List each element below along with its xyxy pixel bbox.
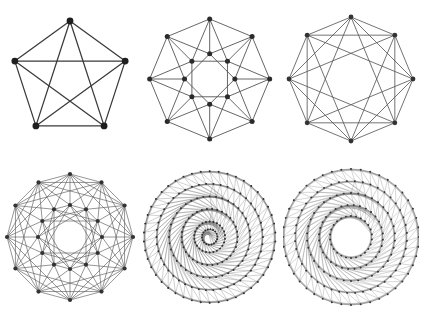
graph-edge xyxy=(383,197,390,207)
graph-vertex xyxy=(333,248,335,250)
graph-vertex xyxy=(402,216,404,218)
graph-edge xyxy=(299,264,301,282)
graph-edge xyxy=(330,240,337,253)
graph-vertex xyxy=(192,259,194,261)
graph-vertex xyxy=(215,276,217,278)
graph-vertex xyxy=(370,288,372,290)
graph-edge xyxy=(156,198,173,199)
graph-edge xyxy=(152,207,165,210)
graph-vertex xyxy=(365,264,367,266)
graph-vertex xyxy=(369,171,371,173)
graph-edge xyxy=(383,219,391,239)
graph-vertex xyxy=(407,199,409,201)
graph-vertex xyxy=(185,221,187,223)
graph-edge xyxy=(379,175,402,192)
graph-vertex xyxy=(219,224,221,226)
graph-vertex xyxy=(195,231,197,233)
graph-vertex xyxy=(323,201,325,203)
graph-edge xyxy=(366,255,391,265)
graph-edge xyxy=(156,199,169,203)
graph-edge xyxy=(125,237,133,269)
graph-edge xyxy=(39,174,71,182)
graph-vertex xyxy=(245,197,247,199)
graph-edge xyxy=(378,192,384,202)
graph-vertex xyxy=(333,224,335,226)
graph-vertex xyxy=(307,247,309,249)
graph-vertex xyxy=(216,250,218,252)
graph-vertex xyxy=(181,236,183,238)
graph-vertex xyxy=(297,217,299,219)
graph-vertex xyxy=(362,291,364,293)
graph-edge xyxy=(16,237,39,269)
graph-edge xyxy=(234,284,244,293)
graph-edge xyxy=(15,61,104,126)
graph-vertex xyxy=(67,18,74,25)
graph-edge xyxy=(39,182,71,205)
graph-vertex xyxy=(212,229,214,231)
graph-vertex xyxy=(226,258,228,260)
graph-edge xyxy=(246,203,251,218)
graph-vertex xyxy=(37,180,41,184)
graph-vertex xyxy=(207,264,209,266)
graph-vertex xyxy=(212,264,214,266)
graph-edge xyxy=(372,276,391,277)
graph-vertex xyxy=(323,187,325,189)
graph-edge xyxy=(70,269,102,292)
graph-vertex xyxy=(293,199,295,201)
graph-edge xyxy=(263,215,272,230)
graph-vertex xyxy=(360,217,362,219)
graph-vertex xyxy=(415,255,417,257)
graph-vertex xyxy=(380,226,382,228)
graph-edge xyxy=(368,216,375,225)
graph-vertex xyxy=(199,224,201,226)
graph-vertex xyxy=(258,257,260,259)
graph-vertex xyxy=(175,180,177,182)
graph-edge xyxy=(356,257,372,261)
graph-vertex xyxy=(406,232,408,234)
graph-edge xyxy=(250,230,263,244)
graph-edge xyxy=(361,256,376,257)
graph-vertex xyxy=(216,233,218,235)
graph-vertex xyxy=(346,292,348,294)
graph-vertex xyxy=(243,180,245,182)
graph-vertex xyxy=(390,254,392,256)
graph-vertex xyxy=(161,191,163,193)
graph-vertex xyxy=(206,208,208,210)
graph-edge xyxy=(365,185,370,196)
graph-edge xyxy=(125,206,133,238)
graph-vertex xyxy=(377,285,379,287)
graph-vertex xyxy=(191,272,193,274)
graph-vertex xyxy=(301,263,303,265)
graph-edge xyxy=(299,282,322,299)
graph-edge xyxy=(384,180,387,192)
graph-vertex xyxy=(198,288,200,290)
graph-edge xyxy=(323,286,324,299)
graph-vertex xyxy=(237,231,239,233)
graph-vertex xyxy=(222,275,224,277)
graph-vertex xyxy=(378,174,380,176)
graph-vertex xyxy=(164,264,166,266)
graph-vertex xyxy=(294,240,296,242)
graph-vertex xyxy=(218,301,220,303)
graph-edge xyxy=(70,21,104,126)
graph-vertex xyxy=(338,181,340,183)
graph-edge xyxy=(251,271,264,275)
graph-vertex xyxy=(329,212,331,214)
graph-vertex xyxy=(5,235,9,239)
graph-vertex xyxy=(222,261,224,263)
graph-vertex xyxy=(196,227,198,229)
graph-vertex xyxy=(164,208,166,210)
graph-edge xyxy=(225,222,233,235)
graph-vertex xyxy=(343,193,345,195)
graph-vertex xyxy=(208,244,210,246)
graph-vertex xyxy=(224,234,226,236)
graph-vertex xyxy=(286,77,291,82)
graph-vertex xyxy=(158,250,160,252)
graph-edge xyxy=(70,21,125,61)
graph-vertex xyxy=(262,236,264,238)
graph-vertex xyxy=(260,222,262,224)
graph-vertex xyxy=(340,206,342,208)
graph-vertex xyxy=(354,180,356,182)
graph-vertex xyxy=(173,197,175,199)
graph-vertex xyxy=(395,270,397,272)
